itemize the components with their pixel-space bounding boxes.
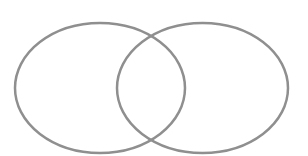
venn-diagram-svg (0, 0, 308, 156)
venn-diagram (0, 0, 308, 156)
left-set-ellipse (15, 23, 185, 153)
right-set-ellipse (117, 23, 288, 153)
